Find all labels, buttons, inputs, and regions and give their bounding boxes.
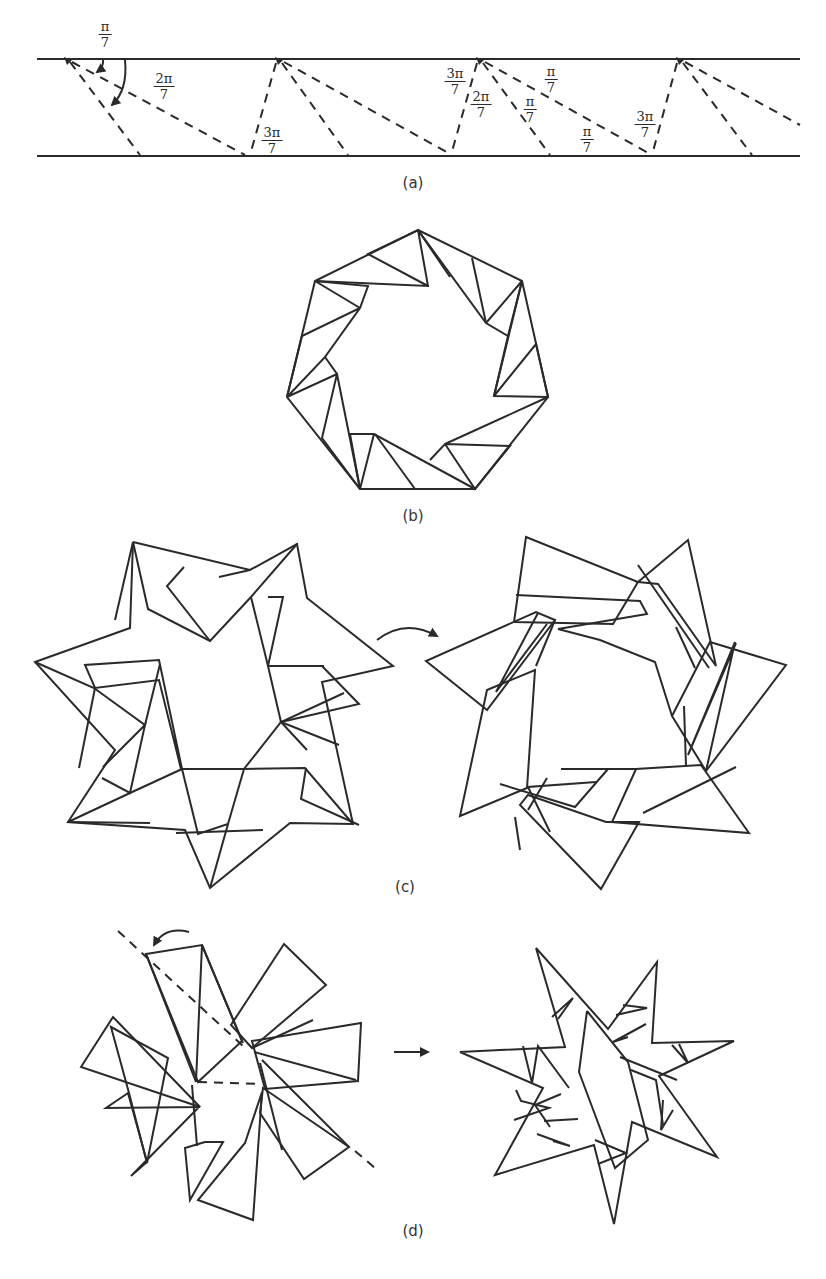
- caption-b: (b): [402, 507, 423, 525]
- numerator: π: [581, 125, 594, 140]
- panel-c-star-left: [35, 542, 393, 888]
- arc-arrow-icon: [97, 60, 103, 72]
- angle-label-3pi-over-7: 3π 7: [262, 126, 283, 155]
- denominator: 7: [581, 140, 594, 154]
- denominator: 7: [445, 82, 466, 96]
- angle-label-2pi-over-7: 2π 7: [471, 90, 492, 119]
- denominator: 7: [545, 80, 558, 94]
- angle-label-pi-over-7: π 7: [99, 20, 112, 49]
- angle-label-3pi-over-7: 3π 7: [445, 67, 466, 96]
- angle-label-2pi-over-7: 2π 7: [154, 72, 175, 101]
- numerator: 2π: [154, 72, 175, 87]
- denominator: 7: [154, 87, 175, 101]
- numerator: π: [545, 65, 558, 80]
- fold-arrow-icon: [154, 931, 189, 945]
- caption-d: (d): [402, 1222, 423, 1240]
- caption-c: (c): [395, 878, 415, 896]
- numerator: π: [524, 95, 537, 110]
- heptagon-inner-folds: [287, 230, 548, 489]
- denominator: 7: [471, 105, 492, 119]
- angle-arcs: [97, 60, 125, 105]
- numerator: 3π: [635, 110, 656, 125]
- curved-arrow-icon: [377, 628, 437, 640]
- numerator: 2π: [471, 90, 492, 105]
- fold-line-dashed: [355, 1151, 375, 1168]
- panel-d-left: [81, 931, 375, 1220]
- panel-b-heptagon: [287, 230, 548, 489]
- caption-a: (a): [403, 174, 424, 192]
- panel-d-right: [460, 948, 734, 1224]
- denominator: 7: [99, 35, 112, 49]
- numerator: 3π: [262, 126, 283, 141]
- denominator: 7: [635, 125, 656, 139]
- panel-c-star-right: [426, 537, 786, 889]
- numerator: π: [99, 20, 112, 35]
- angle-label-3pi-over-7: 3π 7: [635, 110, 656, 139]
- fold-line-dashed: [198, 1082, 262, 1084]
- denominator: 7: [524, 110, 537, 124]
- denominator: 7: [262, 141, 283, 155]
- crease-lines: [70, 62, 800, 155]
- numerator: 3π: [445, 67, 466, 82]
- angle-label-pi-over-7: π 7: [524, 95, 537, 124]
- angle-label-pi-over-7: π 7: [545, 65, 558, 94]
- angle-label-pi-over-7: π 7: [581, 125, 594, 154]
- panel-a-strip: [37, 57, 800, 156]
- arc-arrow-icon: [112, 60, 125, 105]
